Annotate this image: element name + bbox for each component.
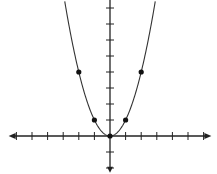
- axes: [9, 0, 212, 173]
- data-point: [76, 69, 81, 74]
- data-point: [107, 133, 112, 138]
- data-point: [92, 117, 97, 122]
- chart-canvas: [0, 0, 217, 174]
- x-axis-right-arrow-icon: [204, 133, 211, 139]
- data-point: [123, 117, 128, 122]
- parabola-plot: [0, 0, 217, 174]
- x-axis-left-arrow-icon: [9, 133, 16, 139]
- data-point: [139, 69, 144, 74]
